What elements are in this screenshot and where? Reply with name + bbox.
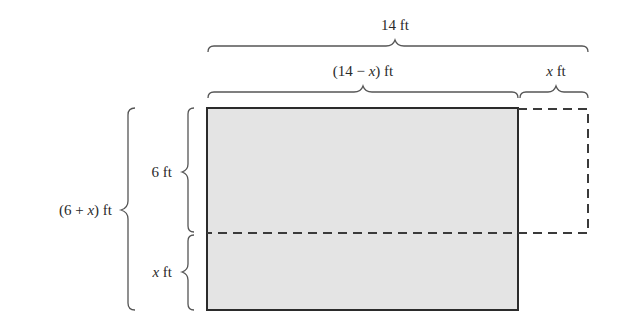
- rectangle-dimension-diagram: 14 ft (14 − x) ft x ft 6 ft x ft (6 + x)…: [0, 0, 620, 334]
- label-added-height: x ft: [151, 264, 172, 280]
- brace-extension-width: [520, 86, 588, 98]
- brace-total-width: [208, 40, 588, 52]
- label-total-height: (6 + x) ft: [59, 202, 113, 219]
- label-total-width: 14 ft: [381, 17, 410, 33]
- brace-original-height: [182, 108, 194, 232]
- brace-total-height: [121, 108, 135, 310]
- label-original-height: 6 ft: [152, 164, 173, 180]
- shaded-rectangle: [207, 108, 518, 310]
- brace-added-height: [182, 235, 194, 310]
- label-reduced-width: (14 − x) ft: [333, 63, 394, 80]
- brace-reduced-width: [208, 86, 518, 98]
- label-extension-width: x ft: [545, 63, 566, 79]
